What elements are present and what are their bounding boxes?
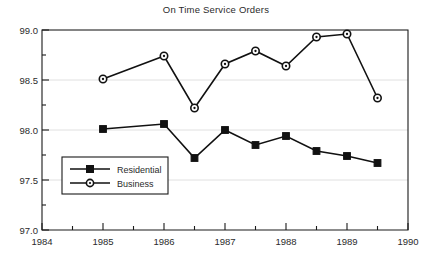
y-axis-ticks [42,30,49,230]
x-tick-label-1984: 1984 [31,236,52,247]
data-point-residential-1[interactable] [161,121,168,128]
x-tick-label-1990: 1990 [397,236,418,247]
x-axis-labels: 1984 1985 1986 1987 1988 1989 1990 [31,236,418,247]
x-tick-label-1985: 1985 [92,236,113,247]
data-point-dot-business-6 [315,36,317,38]
y-tick-label-99-0: 99.0 [20,25,39,36]
data-point-residential-8[interactable] [374,160,381,167]
legend-marker-residential-square [87,166,94,173]
x-axis-ticks [42,223,408,230]
legend-marker-business-dot [89,182,91,184]
x-tick-label-1986: 1986 [153,236,174,247]
chart-page: On Time Service Orders 99.0 [0,0,432,256]
line-chart: 99.0 98.5 98.0 97.5 97.0 1984 1985 [0,0,432,256]
legend-label-residential: Residential [117,165,162,175]
data-point-dot-business-1 [163,55,165,57]
chart-legend[interactable]: Residential Business [62,157,168,194]
data-point-residential-5[interactable] [283,133,290,140]
y-tick-label-97-0: 97.0 [20,225,39,236]
data-point-dot-business-0 [102,78,104,80]
x-tick-label-1988: 1988 [275,236,296,247]
data-series-layer [99,30,381,166]
data-point-residential-7[interactable] [344,153,351,160]
data-point-dot-business-8 [376,97,378,99]
data-point-dot-business-2 [193,107,195,109]
data-point-residential-3[interactable] [222,127,229,134]
x-tick-label-1987: 1987 [214,236,235,247]
series-business [99,30,381,111]
legend-label-business: Business [117,179,154,189]
data-point-residential-2[interactable] [191,155,198,162]
y-tick-label-97-5: 97.5 [20,175,39,186]
y-tick-label-98-0: 98.0 [20,125,39,136]
data-point-residential-0[interactable] [100,126,107,133]
data-point-residential-6[interactable] [313,148,320,155]
data-point-dot-business-5 [285,65,287,67]
data-point-dot-business-3 [224,63,226,65]
y-tick-label-98-5: 98.5 [20,75,39,86]
data-point-dot-business-7 [346,33,348,35]
data-point-dot-business-4 [254,50,256,52]
data-point-residential-4[interactable] [252,142,259,149]
x-tick-label-1989: 1989 [336,236,357,247]
series-line-business [103,34,378,108]
y-axis-labels: 99.0 98.5 98.0 97.5 97.0 [20,25,39,236]
